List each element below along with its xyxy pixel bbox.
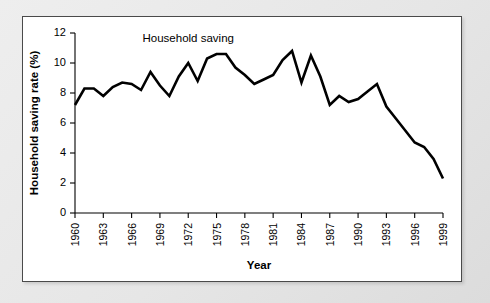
- figure-background: 024681012 196019631966196919721975197819…: [0, 0, 490, 303]
- x-tick-marks: [75, 213, 443, 218]
- x-tick-label-1987: 1987: [324, 223, 336, 247]
- x-tick-label-1963: 1963: [97, 223, 109, 247]
- x-tick-label-1993: 1993: [380, 223, 392, 247]
- chart-panel: 024681012 196019631966196919721975197819…: [22, 16, 462, 282]
- household-saving-series-line: [75, 51, 443, 179]
- x-tick-label-1966: 1966: [126, 223, 138, 247]
- household-saving-annotation: Household saving: [143, 32, 234, 44]
- y-tick-labels: 024681012: [54, 26, 66, 218]
- x-tick-label-1996: 1996: [409, 223, 421, 247]
- x-tick-label-1999: 1999: [437, 223, 449, 247]
- y-tick-label-10: 10: [54, 56, 66, 68]
- x-tick-label-1984: 1984: [295, 223, 307, 247]
- y-tick-label-6: 6: [60, 116, 66, 128]
- x-tick-label-1978: 1978: [239, 223, 251, 247]
- y-axis-title: Household saving rate (%): [28, 51, 40, 196]
- y-tick-label-12: 12: [54, 26, 66, 38]
- y-tick-label-0: 0: [60, 206, 66, 218]
- x-tick-label-1990: 1990: [352, 223, 364, 247]
- x-tick-label-1969: 1969: [154, 223, 166, 247]
- x-tick-label-1960: 1960: [69, 223, 81, 247]
- household-saving-line-chart: 024681012 196019631966196919721975197819…: [23, 17, 461, 281]
- x-tick-label-1975: 1975: [211, 223, 223, 247]
- x-tick-labels: 1960196319661969197219751978198119841987…: [69, 223, 449, 247]
- y-tick-label-2: 2: [60, 176, 66, 188]
- y-tick-label-8: 8: [60, 86, 66, 98]
- y-tick-marks: [70, 33, 75, 213]
- x-tick-label-1972: 1972: [182, 223, 194, 247]
- x-axis-title: Year: [247, 259, 272, 271]
- x-tick-label-1981: 1981: [267, 223, 279, 247]
- y-tick-label-4: 4: [60, 146, 66, 158]
